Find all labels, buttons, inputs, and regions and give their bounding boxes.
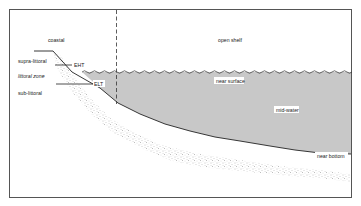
label-coastal: coastal xyxy=(48,37,64,43)
label-eht: EHT xyxy=(74,62,85,68)
label-supra-littoral: supra-littoral xyxy=(18,58,47,64)
zonation-diagram: coastal open shelf supra-littoral littor… xyxy=(0,0,361,206)
label-mid-water: mid-water xyxy=(276,107,299,113)
label-elt: ELT xyxy=(94,81,104,87)
label-open-shelf: open shelf xyxy=(218,37,242,43)
label-littoral-zone: littoral zone xyxy=(18,73,45,79)
label-near-bottom: near bottom xyxy=(317,153,345,159)
label-sub-littoral: sub-littoral xyxy=(18,90,42,96)
label-near-surface: near surface xyxy=(216,78,245,84)
